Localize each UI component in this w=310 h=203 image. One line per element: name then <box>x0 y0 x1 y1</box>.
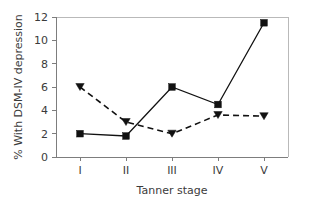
y-tick-label: 4 <box>41 104 48 117</box>
y-tick-labels: 0 2 4 6 8 10 12 <box>34 11 48 164</box>
y-tick-label: 8 <box>41 58 48 71</box>
y-tick-label: 2 <box>41 128 48 141</box>
x-tick-label: III <box>167 164 177 177</box>
x-tick-label: I <box>78 164 81 177</box>
y-tick-label: 10 <box>34 34 48 47</box>
y-tick-label: 12 <box>34 11 48 24</box>
x-tick-labels: I II III IV V <box>78 164 268 177</box>
line-chart-svg: 0 2 4 6 8 10 12 I II III IV V <box>0 0 310 203</box>
x-axis-title: Tanner stage <box>136 184 208 197</box>
series-line-dashed-triangle <box>80 87 264 134</box>
series-markers-triangle <box>76 84 268 138</box>
y-axis-title: % With DSM-IV depression <box>12 14 25 160</box>
series-markers-square <box>77 20 268 140</box>
x-tick-marks <box>80 157 264 161</box>
x-tick-label: V <box>260 164 268 177</box>
y-tick-label: 0 <box>41 151 48 164</box>
y-tick-label: 6 <box>41 81 48 94</box>
x-tick-label: II <box>123 164 130 177</box>
x-tick-label: IV <box>213 164 224 177</box>
y-tick-marks <box>52 17 56 157</box>
chart-figure: 0 2 4 6 8 10 12 I II III IV V <box>0 0 310 203</box>
series-line-solid-square <box>80 23 264 136</box>
